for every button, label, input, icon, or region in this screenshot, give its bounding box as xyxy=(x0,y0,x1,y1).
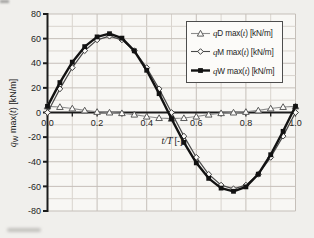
y-tick-label: 40 xyxy=(31,58,41,68)
diamond-marker-icon xyxy=(190,46,211,57)
scan-artifact xyxy=(0,0,9,3)
triangle-marker-icon xyxy=(190,28,211,39)
series-qW-marker xyxy=(219,186,224,191)
y-tick-label: 0 xyxy=(36,108,41,118)
square-marker-icon xyxy=(190,65,211,76)
legend-label-qM: qM max(t) [kN/m] xyxy=(213,47,274,57)
legend-label-qD: qD max(t) [kN/m] xyxy=(213,28,273,38)
legend-item-qM: qM max(t) [kN/m] xyxy=(190,46,280,57)
legend-box: qD max(t) [kN/m] qM max(t) [kN/m] qW max… xyxy=(186,21,283,83)
legend-item-qW: qW max(t) [kN/m] xyxy=(190,65,280,76)
series-qW-marker xyxy=(144,68,149,73)
series-qW-marker xyxy=(293,104,298,109)
series-qW-marker xyxy=(132,48,137,53)
series-qW-marker xyxy=(107,31,112,36)
series-qW-marker xyxy=(45,104,50,109)
wave-load-chart-figure: -80-60-40-200204060800.00.20.40.60.81.0 … xyxy=(0,0,314,238)
scan-artifact xyxy=(7,228,41,232)
series-qW-marker xyxy=(268,152,273,157)
x-axis-label-unit: [-] xyxy=(175,136,183,146)
series-qW-marker xyxy=(95,35,100,40)
series-qW-marker xyxy=(58,80,63,85)
y-tick-label: 60 xyxy=(31,34,41,44)
series-qW-marker xyxy=(281,129,286,134)
y-tick-label: -20 xyxy=(28,132,41,142)
x-axis-label-var: t/T xyxy=(161,135,172,146)
y-tick-label: 80 xyxy=(31,9,41,19)
x-tick-label: 1.0 xyxy=(289,118,302,128)
series-qW-marker xyxy=(244,184,249,189)
y-tick-label: 20 xyxy=(31,83,41,93)
y-axis-label-q: q xyxy=(7,142,18,147)
x-tick-label: 0.2 xyxy=(91,118,104,128)
series-qW-marker xyxy=(206,176,211,181)
y-axis-label-close: ) [kN/m] xyxy=(8,79,18,111)
y-axis-label: qW max(t) [kN/m] xyxy=(7,79,20,147)
series-qW-marker xyxy=(70,60,75,65)
x-tick-label: 0.8 xyxy=(240,118,253,128)
series-qW-marker xyxy=(82,44,87,49)
series-qW-marker xyxy=(120,36,125,41)
series-qW-marker xyxy=(169,116,174,121)
series-qW-marker xyxy=(256,172,261,177)
y-axis-label-sub: W xyxy=(12,136,19,143)
x-tick-label: 0.0 xyxy=(41,118,54,128)
x-axis-label: t/T[-] xyxy=(161,135,182,146)
y-axis-label-mid: max( xyxy=(8,113,18,136)
y-axis-label-t: t xyxy=(7,110,18,113)
y-tick-label: -40 xyxy=(28,157,41,167)
legend-item-qD: qD max(t) [kN/m] xyxy=(190,28,280,39)
series-qW-marker xyxy=(231,189,236,194)
series-qW-marker xyxy=(157,91,162,96)
series-qW-marker xyxy=(194,160,199,165)
legend-label-qW: qW max(t) [kN/m] xyxy=(213,66,274,76)
y-tick-label: -60 xyxy=(28,182,41,192)
y-tick-label: -80 xyxy=(28,206,41,216)
